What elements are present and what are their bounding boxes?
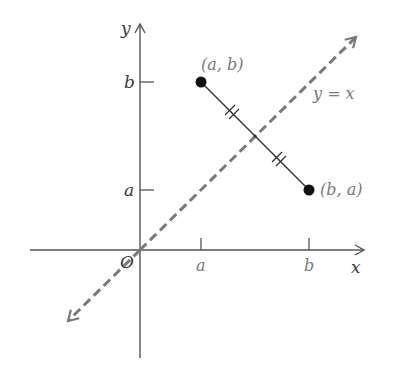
y-tick-label-a: a <box>124 180 134 200</box>
congruence-mark-lower <box>272 152 286 166</box>
point-label-a-b: (a, b) <box>201 55 243 74</box>
y-axis-label: y <box>120 18 131 38</box>
x-tick-label-b: b <box>304 256 314 275</box>
x-axis-label: x <box>351 257 361 277</box>
y-tick-label-b: b <box>124 72 135 92</box>
line-label-y-equals-x: y = x <box>312 84 355 103</box>
congruence-mark-upper <box>225 105 239 119</box>
point-a-b <box>196 77 207 88</box>
point-label-b-a: (b, a) <box>320 180 362 199</box>
midpoint <box>253 134 256 137</box>
point-b-a <box>304 185 315 196</box>
origin-label: O <box>120 252 134 272</box>
line-y-equals-x <box>140 37 356 250</box>
diagram-canvas: y x O a b b a (a, b) (b, a) y = x <box>0 0 393 384</box>
x-tick-label-a: a <box>196 256 206 275</box>
